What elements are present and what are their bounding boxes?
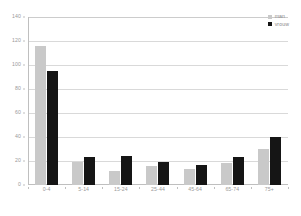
y-tick-mark-140 xyxy=(23,17,25,18)
x-tick-mark-2 xyxy=(102,187,103,189)
bar-group-0-4 xyxy=(28,17,65,185)
legend-swatch-man xyxy=(268,15,272,19)
y-tick-mark-120 xyxy=(23,41,25,42)
x-tick-mark-5 xyxy=(214,187,215,189)
bar-group-5-14 xyxy=(65,17,102,185)
bar-vrouw-65-74 xyxy=(233,157,244,185)
x-tick-mark-0 xyxy=(28,187,29,189)
bar-man-75+ xyxy=(258,149,269,185)
x-tick-mark-3 xyxy=(139,187,140,189)
x-tick-label-5-14: 5-14 xyxy=(65,187,102,201)
bar-group-75+ xyxy=(251,17,288,185)
y-tick-label-60: 60 xyxy=(15,110,21,115)
y-tick-mark-60 xyxy=(23,113,25,114)
y-tick-mark-40 xyxy=(23,137,25,138)
y-tick-mark-100 xyxy=(23,65,25,66)
legend-entry-vrouw[interactable]: vrouw xyxy=(268,22,289,27)
bar-group-25-44 xyxy=(139,17,176,185)
x-tick-label-75+: 75+ xyxy=(251,187,288,201)
y-tick-label-100: 100 xyxy=(12,62,21,67)
y-tick-label-40: 40 xyxy=(15,134,21,139)
legend-swatch-vrouw xyxy=(268,22,272,26)
x-tick-mark-7 xyxy=(288,187,289,189)
y-tick-label-20: 20 xyxy=(15,158,21,163)
legend-label-vrouw: vrouw xyxy=(275,22,289,27)
bar-chart: 020406080100120140 0-45-1415-2425-4445-6… xyxy=(0,0,301,216)
bar-group-65-74 xyxy=(214,17,251,185)
y-tick-label-80: 80 xyxy=(15,86,21,91)
bar-man-15-24 xyxy=(109,171,120,185)
bar-man-5-14 xyxy=(72,162,83,185)
y-tick-label-120: 120 xyxy=(12,38,21,43)
y-tick-label-0: 0 xyxy=(18,182,21,187)
x-tick-label-45-64: 45-64 xyxy=(177,187,214,201)
bars-layer xyxy=(28,17,288,185)
y-tick-mark-20 xyxy=(23,161,25,162)
x-tick-label-15-24: 15-24 xyxy=(102,187,139,201)
bar-group-45-64 xyxy=(177,17,214,185)
y-tick-label-140: 140 xyxy=(12,14,21,19)
bar-vrouw-25-44 xyxy=(158,162,169,185)
bar-man-65-74 xyxy=(221,163,232,185)
chart-legend: manvrouw xyxy=(268,14,289,27)
x-tick-mark-6 xyxy=(251,187,252,189)
x-tick-mark-4 xyxy=(177,187,178,189)
legend-entry-man[interactable]: man xyxy=(268,14,289,19)
bar-vrouw-0-4 xyxy=(47,71,58,185)
legend-label-man: man xyxy=(275,14,285,19)
bar-man-45-64 xyxy=(184,169,195,185)
bar-vrouw-75+ xyxy=(270,137,281,185)
x-tick-label-25-44: 25-44 xyxy=(139,187,176,201)
bar-group-15-24 xyxy=(102,17,139,185)
x-tick-label-0-4: 0-4 xyxy=(28,187,65,201)
x-tick-mark-1 xyxy=(65,187,66,189)
y-tick-mark-0 xyxy=(23,185,25,186)
bar-man-25-44 xyxy=(146,166,157,185)
y-tick-mark-80 xyxy=(23,89,25,90)
y-axis: 020406080100120140 xyxy=(0,17,25,185)
bar-vrouw-5-14 xyxy=(84,157,95,185)
bar-man-0-4 xyxy=(35,46,46,185)
x-axis: 0-45-1415-2425-4445-6465-7475+ xyxy=(28,187,288,201)
x-tick-label-65-74: 65-74 xyxy=(214,187,251,201)
bar-vrouw-45-64 xyxy=(196,165,207,185)
bar-vrouw-15-24 xyxy=(121,156,132,185)
